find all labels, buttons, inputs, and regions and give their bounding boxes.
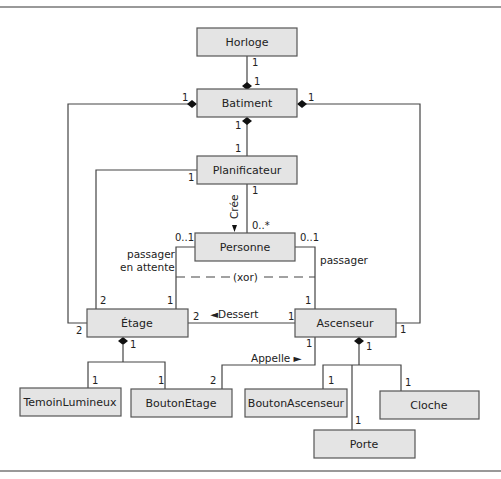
composition-diamond: [187, 100, 197, 108]
class-ascenseur[interactable]: Ascenseur: [295, 309, 396, 337]
class-planificateur[interactable]: Planificateur: [197, 156, 297, 184]
class-name: TemoinLumineux: [23, 396, 117, 409]
multiplicity: 1: [235, 143, 241, 154]
composition-diamond: [354, 337, 364, 345]
composition-etage-branches: [88, 362, 165, 389]
class-name: Planificateur: [213, 164, 282, 177]
multiplicity: 1: [167, 295, 173, 306]
class-name: Cloche: [410, 399, 447, 412]
xor-constraint-label: (xor): [233, 271, 258, 283]
multiplicity: 1: [288, 311, 294, 322]
class-name: Étage: [121, 317, 153, 330]
class-bouton-etage[interactable]: BoutonEtage: [131, 389, 232, 417]
class-bouton-ascenseur[interactable]: BoutonAscenseur: [245, 389, 347, 417]
multiplicity: 1: [252, 185, 258, 196]
assoc-batiment-etage: [68, 104, 191, 323]
multiplicity: 1: [328, 375, 334, 386]
class-horloge[interactable]: Horloge: [197, 28, 297, 56]
class-name: Porte: [350, 438, 379, 451]
composition-ascenseur-branches: [323, 365, 401, 391]
multiplicity: 0..*: [252, 220, 270, 231]
role-passager-en-attente: passager: [127, 248, 176, 260]
assoc-label-cree: Crée: [228, 195, 240, 219]
multiplicity: 1: [158, 375, 164, 386]
class-cloche[interactable]: Cloche: [380, 391, 479, 419]
multiplicity: 1: [254, 76, 260, 87]
multiplicity: 1: [130, 339, 136, 350]
multiplicity: 1: [92, 375, 98, 386]
multiplicity: 1: [306, 338, 312, 349]
assoc-label-appelle: Appelle ►: [251, 352, 303, 364]
composition-diamond: [297, 100, 307, 108]
assoc-label-dessert: ◄Dessert: [210, 308, 258, 320]
multiplicity: 1: [305, 295, 311, 306]
composition-diamond: [242, 117, 252, 125]
multiplicity: 2: [76, 325, 82, 336]
assoc-personne-etage: [176, 247, 195, 309]
class-name: Ascenseur: [316, 317, 374, 330]
multiplicity: 1: [188, 172, 194, 183]
multiplicity: 2: [100, 295, 106, 306]
multiplicity: 1: [235, 120, 241, 131]
composition-diamond: [118, 337, 128, 345]
multiplicity: 1: [405, 377, 411, 388]
class-batiment[interactable]: Batiment: [197, 89, 297, 117]
multiplicity: 1: [366, 341, 372, 352]
class-name: Horloge: [225, 36, 268, 49]
class-personne[interactable]: Personne: [195, 233, 295, 261]
role-passager: passager: [320, 254, 369, 266]
multiplicity: 1: [308, 92, 314, 103]
multiplicity: 1: [400, 324, 406, 335]
class-name: Batiment: [222, 97, 273, 110]
assoc-batiment-ascenseur: [303, 104, 420, 323]
class-name: Personne: [220, 241, 271, 254]
class-temoin-lumineux[interactable]: TemoinLumineux: [20, 388, 121, 416]
role-passager-en-attente: en attente: [120, 261, 175, 273]
multiplicity: 0..1: [175, 232, 194, 243]
multiplicity: 1: [355, 415, 361, 426]
multiplicity: 0..1: [300, 232, 319, 243]
class-name: BoutonAscenseur: [248, 397, 345, 410]
class-etage[interactable]: Étage: [87, 309, 188, 337]
multiplicity: 2: [193, 311, 199, 322]
multiplicity: 2: [210, 375, 216, 386]
class-porte[interactable]: Porte: [314, 430, 415, 458]
class-name: BoutonEtage: [145, 397, 216, 410]
direction-arrow-icon: [232, 225, 237, 232]
multiplicity: 1: [252, 57, 258, 68]
uml-class-diagram: Horloge Batiment Planificateur Personne …: [0, 0, 501, 479]
multiplicity: 1: [182, 92, 188, 103]
